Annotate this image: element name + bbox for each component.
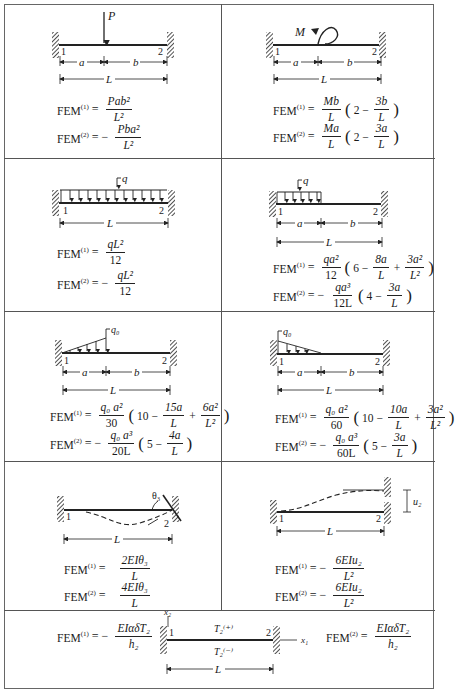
svg-text:1: 1 bbox=[278, 206, 283, 217]
svg-text:u₂: u₂ bbox=[413, 496, 422, 507]
fem1-formula: FEM(1) = q₀ a²30 (10 − 15aL + 6a²L²) bbox=[50, 401, 230, 430]
svg-text:b: b bbox=[133, 56, 139, 68]
fem1-formula: FEM(1) = MbL (2 − 3bL) bbox=[273, 95, 400, 124]
cell-triangular-load-increasing: q₀ 1 2 a b L FEM(1) = q₀ a²30 (10 − 15aL… bbox=[0, 311, 221, 461]
cell-support-rotation: θ₃ 2 1 L FEM(1) = 2EIθ₃L FEM(2) = 4EIθ₃L bbox=[0, 461, 221, 610]
svg-text:L: L bbox=[214, 663, 221, 675]
svg-text:L: L bbox=[325, 236, 332, 248]
svg-text:L: L bbox=[109, 384, 116, 396]
svg-text:1: 1 bbox=[279, 356, 284, 367]
cell-support-settlement: u₂ 1 2 L FEM(1) = − 6EIu₂L² FEM(2) = − 6… bbox=[221, 461, 435, 610]
svg-text:2: 2 bbox=[162, 355, 167, 366]
svg-text:a: a bbox=[297, 366, 303, 378]
svg-text:1: 1 bbox=[61, 46, 66, 57]
cell-concentrated-moment: M 1 2 a b L FEM(1) = MbL (2 − 3bL) FEM(2… bbox=[221, 0, 435, 158]
deflected-shape bbox=[281, 490, 384, 511]
svg-text:L: L bbox=[320, 73, 327, 85]
svg-text:L: L bbox=[325, 384, 332, 396]
fem2-formula: FEM(2) = − 6EIu₂L² bbox=[275, 581, 367, 610]
fem2-formula: FEM(2) = MaL (2 − 3aL) bbox=[273, 122, 400, 151]
svg-text:1: 1 bbox=[66, 511, 71, 522]
fem1-formula: FEM(1) = qa²12 (6 − 8aL + 3a²L²) bbox=[273, 253, 435, 282]
fem2-formula: FEM(2) = EIαδT₂h₂ bbox=[326, 622, 414, 651]
svg-text:b: b bbox=[349, 366, 355, 378]
svg-text:q: q bbox=[303, 174, 309, 186]
fem1-formula: FEM(1) = 2EIθ₃L bbox=[64, 554, 153, 583]
svg-text:2: 2 bbox=[373, 206, 378, 217]
svg-text:1: 1 bbox=[275, 46, 280, 57]
svg-text:2: 2 bbox=[372, 46, 377, 57]
fixed-support-left bbox=[52, 32, 59, 58]
svg-text:P: P bbox=[107, 9, 116, 23]
svg-text:2: 2 bbox=[266, 627, 271, 638]
svg-text:L: L bbox=[106, 217, 113, 229]
svg-text:q: q bbox=[122, 172, 128, 184]
svg-text:2: 2 bbox=[159, 205, 164, 216]
svg-text:θ₃: θ₃ bbox=[152, 490, 160, 501]
svg-text:b: b bbox=[350, 217, 356, 229]
cell-uniform-load-partial: q 1 2 a b L FEM(1) = qa²12 (6 − 8aL + 3a… bbox=[221, 158, 435, 311]
svg-text:L: L bbox=[326, 525, 333, 537]
svg-text:L: L bbox=[105, 73, 112, 85]
svg-text:a: a bbox=[82, 366, 88, 378]
triangular-load-icon bbox=[62, 329, 110, 353]
fem1-formula: FEM(1) = − EIαδT₂h₂ bbox=[57, 622, 155, 651]
moment-arrow-icon bbox=[318, 28, 338, 44]
svg-text:1: 1 bbox=[279, 513, 284, 524]
svg-text:M: M bbox=[294, 25, 306, 39]
svg-text:b: b bbox=[347, 56, 353, 68]
fem2-formula: FEM(2) = − q₀ a³20L (5 − 4aL) bbox=[50, 429, 193, 458]
svg-text:1: 1 bbox=[169, 627, 174, 638]
svg-text:a: a bbox=[293, 56, 299, 68]
fem2-formula: FEM(2) = − qa³12L (4 − 3aL) bbox=[273, 281, 413, 310]
fem1-formula: FEM(1) = q₀ a²60 (10 − 10aL + 3a²L²) bbox=[275, 403, 455, 432]
cell-thermal-gradient: x₂ x₁ 1 2 T₂⁽⁺⁾ T₂⁽⁻⁾ L FEM(1) = − EIαδT… bbox=[0, 610, 435, 690]
svg-text:2: 2 bbox=[158, 46, 163, 57]
svg-text:q₀: q₀ bbox=[111, 324, 120, 335]
svg-text:x₂: x₂ bbox=[163, 607, 171, 617]
svg-text:a: a bbox=[297, 217, 303, 229]
fixed-support-right bbox=[167, 32, 174, 58]
deflected-shape bbox=[86, 510, 172, 525]
svg-text:1: 1 bbox=[64, 355, 69, 366]
fem1-formula: FEM(1) = Pab²L² bbox=[57, 95, 135, 124]
svg-text:L: L bbox=[113, 533, 120, 545]
fem1-formula: FEM(1) = − 6EIu₂L² bbox=[275, 554, 367, 583]
svg-text:2: 2 bbox=[376, 513, 381, 524]
fem2-formula: FEM(2) = − qL²12 bbox=[57, 269, 138, 298]
fem2-formula: FEM(2) = 4EIθ₃L bbox=[64, 581, 153, 610]
svg-text:q₀: q₀ bbox=[283, 326, 292, 337]
fem1-formula: FEM(1) = qL²12 bbox=[57, 238, 128, 267]
svg-text:a: a bbox=[79, 56, 85, 68]
svg-text:2: 2 bbox=[164, 518, 169, 529]
svg-text:b: b bbox=[134, 366, 140, 378]
cell-point-load: P 1 2 a b L FEM(1) = Pab²L² FEM(2) = − P… bbox=[0, 0, 221, 158]
svg-text:T₂⁽⁺⁾: T₂⁽⁺⁾ bbox=[214, 623, 234, 634]
cell-uniform-load-full: q 1 2 L FEM(1) = qL²12 FEM(2) = − qL²12 bbox=[0, 158, 221, 311]
fem2-formula: FEM(2) = − q₀ a³60L (5 − 3aL) bbox=[275, 431, 418, 460]
cell-triangular-load-decreasing: q₀ 1 2 a b L FEM(1) = q₀ a²60 (10 − 10aL… bbox=[221, 311, 435, 461]
svg-text:1: 1 bbox=[63, 205, 68, 216]
svg-text:T₂⁽⁻⁾: T₂⁽⁻⁾ bbox=[214, 646, 234, 657]
svg-text:x₁: x₁ bbox=[300, 635, 308, 645]
fem2-formula: FEM(2) = − Pba²L² bbox=[57, 123, 144, 152]
svg-text:2: 2 bbox=[375, 356, 380, 367]
